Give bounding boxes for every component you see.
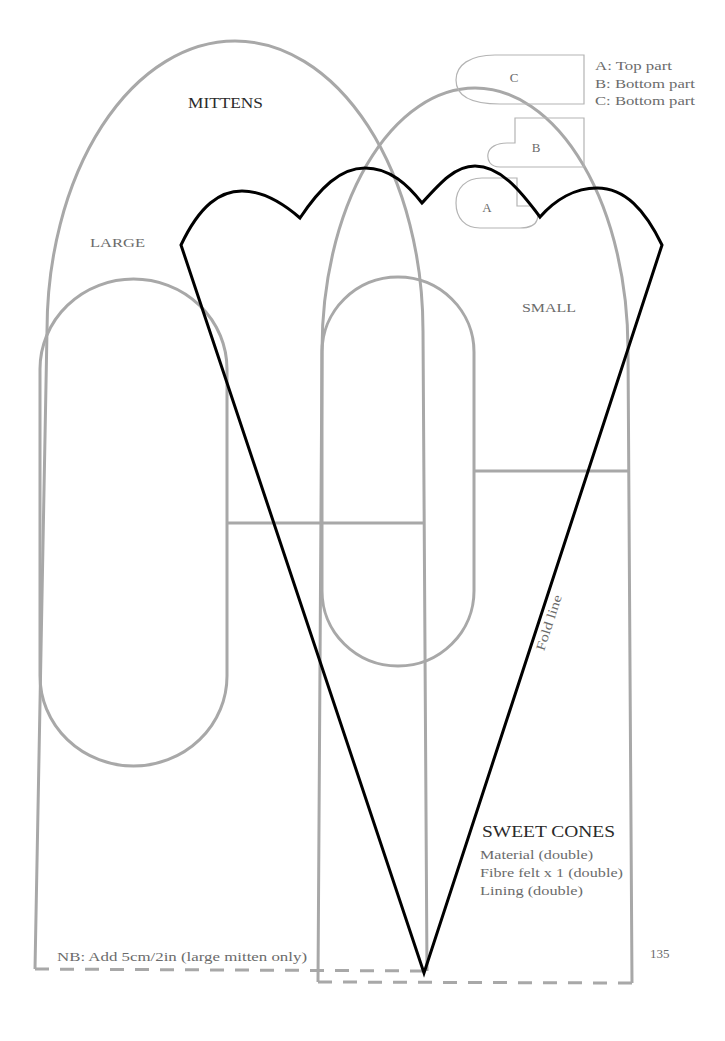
- piece-c-outline: [456, 55, 584, 104]
- large-mitten-note: NB: Add 5cm/2in (large mitten only): [57, 949, 307, 964]
- fibre-felt-line: Fibre felt x 1 (double): [480, 865, 623, 880]
- piece-c-label: C: [510, 70, 519, 85]
- lining-line: Lining (double): [480, 883, 583, 898]
- pattern-page: C B A A: Top part B: Bottom part C: Bott…: [0, 0, 725, 1041]
- piece-a-outline: [456, 178, 538, 228]
- large-mitten-outline: [35, 41, 427, 971]
- large-size-label: LARGE: [90, 235, 145, 250]
- mittens-title: MITTENS: [188, 95, 263, 111]
- piece-a-label: A: [482, 200, 492, 215]
- small-size-label: SMALL: [522, 300, 576, 315]
- small-mitten-bottom-dashed-line: [318, 982, 632, 983]
- large-mitten-extension-dashed-line: [35, 969, 427, 971]
- sweet-cones-title: SWEET CONES: [482, 822, 615, 841]
- page-number: 135: [650, 946, 670, 961]
- piece-legend: A: Top part B: Bottom part C: Bottom par…: [595, 58, 695, 108]
- legend-item-c: C: Bottom part: [595, 93, 695, 108]
- legend-item-a: A: Top part: [595, 58, 672, 73]
- material-line: Material (double): [480, 847, 593, 862]
- large-mitten: [35, 41, 427, 971]
- large-mitten-thumb: [40, 279, 227, 766]
- small-mitten-thumb: [322, 277, 474, 666]
- sweet-cones-info: SWEET CONES Material (double) Fibre felt…: [480, 822, 623, 898]
- piece-b-label: B: [532, 140, 541, 155]
- legend-item-b: B: Bottom part: [595, 76, 695, 91]
- mitten-pieces: C B A: [456, 55, 584, 228]
